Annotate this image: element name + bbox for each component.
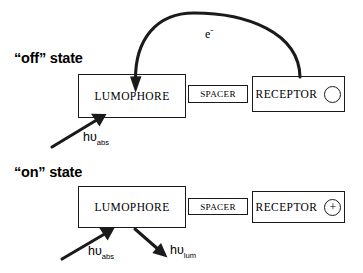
receptor-marker-off bbox=[324, 86, 341, 103]
photon-symbol-on-lum: hυ bbox=[170, 243, 184, 257]
state-label-off: “off” state bbox=[14, 50, 83, 66]
photon-subscript-on-abs: abs bbox=[102, 252, 114, 261]
lumophore-label-on: LUMOPHORE bbox=[94, 201, 169, 213]
arrow-layer bbox=[0, 0, 363, 273]
luminescence-arrowhead-on bbox=[152, 243, 167, 258]
electron-transfer-arrow bbox=[135, 13, 300, 80]
luminescence-arrow-on bbox=[135, 229, 159, 250]
photon-symbol-off-abs: hυ bbox=[83, 130, 97, 144]
photon-symbol-on-abs: hυ bbox=[88, 244, 102, 258]
receptor-box-on: RECEPTOR + bbox=[252, 191, 345, 223]
spacer-label-off: SPACER bbox=[200, 89, 236, 99]
absorption-photon-label-on: hυabs bbox=[88, 244, 114, 261]
lumophore-box-on: LUMOPHORE bbox=[78, 186, 186, 228]
spacer-box-on: SPACER bbox=[188, 198, 248, 215]
receptor-label-on: RECEPTOR bbox=[256, 201, 318, 213]
absorption-photon-label-off: hυabs bbox=[83, 130, 109, 147]
receptor-content-on: RECEPTOR + bbox=[256, 199, 342, 216]
electron-label: e- bbox=[205, 25, 213, 42]
absorption-arrowhead-on bbox=[99, 228, 114, 241]
photon-subscript-on-lum: lum bbox=[184, 251, 196, 260]
receptor-content-off: RECEPTOR bbox=[256, 86, 342, 103]
luminescence-photon-label-on: hυlum bbox=[170, 243, 196, 260]
receptor-label-off: RECEPTOR bbox=[256, 88, 318, 100]
receptor-marker-on: + bbox=[324, 199, 341, 216]
lumophore-box-off: LUMOPHORE bbox=[78, 74, 186, 118]
electron-charge-symbol: - bbox=[210, 25, 213, 35]
receptor-box-off: RECEPTOR bbox=[252, 76, 345, 112]
state-label-on: “on” state bbox=[14, 164, 82, 180]
spacer-box-off: SPACER bbox=[188, 85, 248, 103]
diagram-canvas: “off” state LUMOPHORE SPACER RECEPTOR hυ… bbox=[0, 0, 363, 273]
photon-subscript-off-abs: abs bbox=[97, 138, 109, 147]
lumophore-label-off: LUMOPHORE bbox=[94, 90, 169, 102]
spacer-label-on: SPACER bbox=[200, 202, 236, 212]
